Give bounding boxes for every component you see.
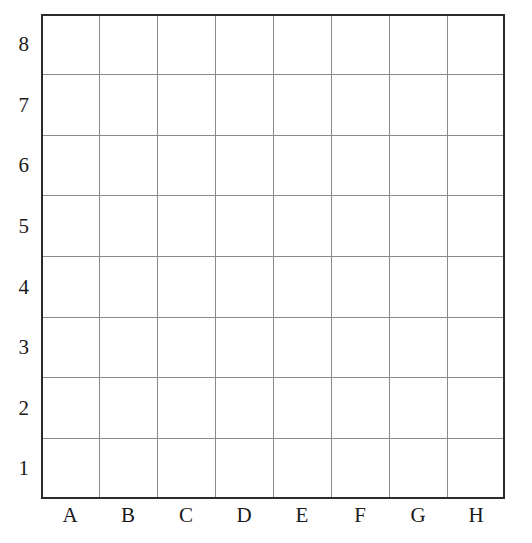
board-square[interactable] xyxy=(99,378,157,439)
board-square[interactable] xyxy=(157,257,215,318)
board-square[interactable] xyxy=(41,317,99,378)
board-square[interactable] xyxy=(273,75,331,136)
board-square[interactable] xyxy=(41,14,99,75)
board-square[interactable] xyxy=(41,75,99,136)
board-square[interactable] xyxy=(389,75,447,136)
board-square[interactable] xyxy=(389,196,447,257)
board-square[interactable] xyxy=(99,75,157,136)
board-square[interactable] xyxy=(273,378,331,439)
board-square[interactable] xyxy=(273,438,331,499)
board-square[interactable] xyxy=(215,135,273,196)
file-label-e: E xyxy=(273,503,331,528)
board-square[interactable] xyxy=(447,438,505,499)
rank-label-4: 4 xyxy=(0,277,29,298)
board-square[interactable] xyxy=(99,317,157,378)
board-square[interactable] xyxy=(273,257,331,318)
board-square[interactable] xyxy=(389,438,447,499)
board-square[interactable] xyxy=(41,378,99,439)
board-square[interactable] xyxy=(157,196,215,257)
board-square[interactable] xyxy=(331,196,389,257)
board-square[interactable] xyxy=(99,14,157,75)
board-square[interactable] xyxy=(273,135,331,196)
board-square[interactable] xyxy=(41,196,99,257)
board-square[interactable] xyxy=(273,196,331,257)
board-square[interactable] xyxy=(447,135,505,196)
board-square[interactable] xyxy=(157,378,215,439)
board-square[interactable] xyxy=(157,438,215,499)
board-square[interactable] xyxy=(389,135,447,196)
board-square[interactable] xyxy=(99,257,157,318)
board-square[interactable] xyxy=(273,317,331,378)
board-square[interactable] xyxy=(331,378,389,439)
board-square[interactable] xyxy=(215,75,273,136)
file-label-h: H xyxy=(447,503,505,528)
board-square[interactable] xyxy=(99,438,157,499)
board-square[interactable] xyxy=(99,196,157,257)
board-square[interactable] xyxy=(447,14,505,75)
rank-label-2: 2 xyxy=(0,398,29,419)
file-axis-labels: A B C D E F G H xyxy=(41,503,505,533)
file-label-c: C xyxy=(157,503,215,528)
board-square[interactable] xyxy=(215,438,273,499)
file-label-f: F xyxy=(331,503,389,528)
board-square[interactable] xyxy=(215,196,273,257)
board-square[interactable] xyxy=(157,317,215,378)
board-square[interactable] xyxy=(447,317,505,378)
board-square[interactable] xyxy=(273,14,331,75)
file-label-d: D xyxy=(215,503,273,528)
board-square[interactable] xyxy=(215,378,273,439)
rank-label-8: 8 xyxy=(0,34,29,55)
board-square[interactable] xyxy=(215,14,273,75)
board-square[interactable] xyxy=(41,135,99,196)
board-square[interactable] xyxy=(331,257,389,318)
board-square[interactable] xyxy=(389,378,447,439)
file-label-b: B xyxy=(99,503,157,528)
board-square[interactable] xyxy=(99,135,157,196)
rank-label-5: 5 xyxy=(0,216,29,237)
board-square[interactable] xyxy=(41,257,99,318)
file-label-a: A xyxy=(41,503,99,528)
rank-label-7: 7 xyxy=(0,95,29,116)
chessboard-grid-figure: 8 7 6 5 4 3 2 1 A B C D E F G H xyxy=(0,0,532,543)
board-square[interactable] xyxy=(331,75,389,136)
board-square[interactable] xyxy=(157,75,215,136)
board-square[interactable] xyxy=(389,14,447,75)
board-square[interactable] xyxy=(157,135,215,196)
board-square[interactable] xyxy=(215,257,273,318)
rank-label-6: 6 xyxy=(0,155,29,176)
board-square[interactable] xyxy=(447,196,505,257)
file-label-g: G xyxy=(389,503,447,528)
board-square[interactable] xyxy=(331,135,389,196)
board-square[interactable] xyxy=(389,317,447,378)
board-square[interactable] xyxy=(331,438,389,499)
board-square[interactable] xyxy=(447,257,505,318)
board-square[interactable] xyxy=(389,257,447,318)
rank-label-3: 3 xyxy=(0,337,29,358)
board-square[interactable] xyxy=(447,378,505,439)
rank-axis-labels: 8 7 6 5 4 3 2 1 xyxy=(0,14,37,499)
grid-area[interactable] xyxy=(41,14,505,499)
rank-label-1: 1 xyxy=(0,458,29,479)
board-square[interactable] xyxy=(215,317,273,378)
board-square[interactable] xyxy=(447,75,505,136)
board-square[interactable] xyxy=(331,317,389,378)
board-square[interactable] xyxy=(157,14,215,75)
board-square[interactable] xyxy=(331,14,389,75)
board-square[interactable] xyxy=(41,438,99,499)
